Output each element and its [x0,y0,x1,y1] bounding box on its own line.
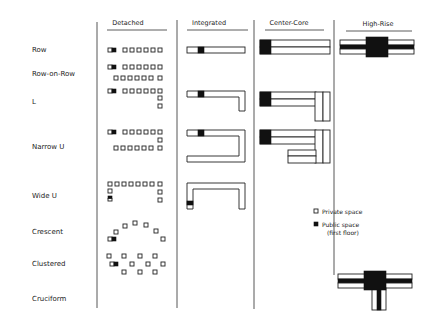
row-label-wide-u: Wide U [32,192,57,200]
detached-crescent [108,221,165,241]
header-center-core: Center-Core [270,19,309,27]
white-square-icon [314,209,318,213]
detached-l [108,89,162,108]
high-rise-row [340,37,414,57]
legend-public-sublabel: (first floor) [327,229,359,236]
detached-clustered [107,254,165,274]
header-detached: Detached [112,19,143,27]
header-high-rise: High-Rise [363,20,394,28]
center-core-l [260,92,330,121]
detached-row-on-row [108,65,162,80]
row-label-cruciform: Cruciform [32,295,66,303]
row-label-narrow-u: Narrow U [32,143,64,151]
high-rise-cruciform [338,271,412,310]
row-label-l: L [32,98,36,106]
black-square-icon [314,222,318,226]
integrated-wide-u [187,183,245,209]
detached-row [108,48,162,52]
integrated-l [187,91,245,111]
row-labels: Row Row-on-Row L Narrow U Wide U Crescen… [32,46,75,303]
legend-private-label: Private space [322,208,363,216]
row-label-row: Row [32,46,47,54]
legend-public-label: Public space [322,221,360,229]
integrated-narrow-u [187,130,245,162]
integrated-row [187,47,245,53]
row-label-crescent: Crescent [32,228,63,236]
row-label-row-on-row: Row-on-Row [32,70,75,78]
row-label-clustered: Clustered [32,260,65,268]
legend: Private space Public space (first floor) [314,208,363,237]
header-integrated: Integrated [192,19,226,27]
center-core-narrow-u [260,130,330,163]
detached-wide-u [108,182,162,202]
column-headers: Detached Integrated Center-Core High-Ris… [107,19,412,31]
center-core-row [260,40,330,54]
detached-narrow-u [108,130,162,150]
housing-typology-diagram: Detached Integrated Center-Core High-Ris… [0,0,436,326]
